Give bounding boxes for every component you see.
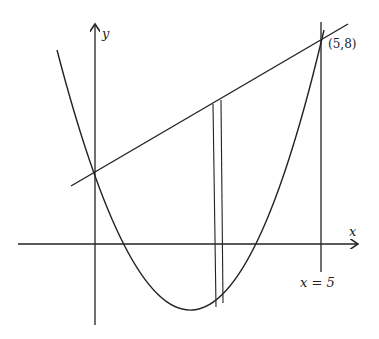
secant-line	[71, 24, 348, 186]
x-axis-label: x	[349, 224, 357, 239]
point-label: (5,8)	[328, 37, 356, 51]
strip-right-edge	[221, 100, 223, 303]
strip-left-edge	[213, 104, 216, 307]
vertical-line-label: x = 5	[300, 275, 335, 290]
diagram: y x (5,8) x = 5	[0, 0, 379, 339]
y-axis-label: y	[101, 26, 110, 41]
